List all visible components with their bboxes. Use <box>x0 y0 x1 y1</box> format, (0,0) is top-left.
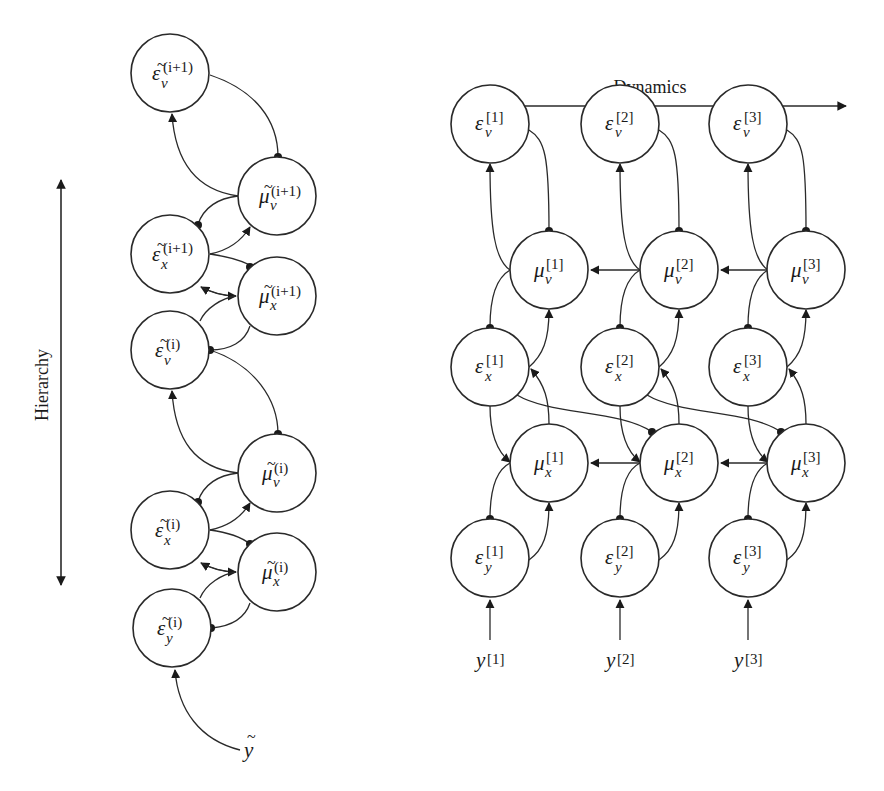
svg-text:x: x <box>544 464 552 480</box>
svg-text:y: y <box>613 559 622 575</box>
svg-text:[3]: [3] <box>744 543 762 559</box>
node-mu-v-ip1: ~ μ (i+1) v <box>238 157 316 235</box>
svg-text:v: v <box>802 271 809 287</box>
svg-text:y: y <box>604 648 616 672</box>
svg-text:x: x <box>163 532 171 548</box>
svg-text:[2]: [2] <box>616 543 634 559</box>
svg-text:ε: ε <box>152 61 161 85</box>
node-eps-y-1: ε [1] y <box>451 519 529 597</box>
svg-text:ε: ε <box>475 545 484 569</box>
svg-text:(i+1): (i+1) <box>163 59 193 76</box>
svg-text:x: x <box>484 368 492 384</box>
svg-text:ε: ε <box>155 518 164 542</box>
svg-text:y: y <box>474 648 486 672</box>
svg-text:v: v <box>743 124 750 140</box>
svg-text:v: v <box>270 197 277 213</box>
svg-text:[2]: [2] <box>617 651 635 667</box>
svg-text:ε: ε <box>475 111 484 135</box>
svg-text:[2]: [2] <box>616 352 634 368</box>
node-mu-v-2: μ [2] v <box>640 231 718 309</box>
svg-text:x: x <box>272 573 280 589</box>
node-mu-v-1: μ [1] v <box>510 231 588 309</box>
svg-text:ε: ε <box>733 111 742 135</box>
node-mu-v-3: μ [3] v <box>767 231 845 309</box>
node-eps-y-2: ε [2] y <box>581 519 659 597</box>
svg-text:μ: μ <box>261 560 273 584</box>
svg-text:ε: ε <box>605 545 614 569</box>
svg-text:ε: ε <box>733 545 742 569</box>
hierarchy-axis: Hierarchy <box>32 180 61 585</box>
svg-text:[2]: [2] <box>616 109 634 125</box>
svg-text:[1]: [1] <box>486 109 504 125</box>
input-y-3: y [3] <box>732 648 763 672</box>
column-1: ε [1] v μ [1] v ε [1] x μ [1] x <box>451 85 588 672</box>
column-2: ε [2] v μ [2] v ε [2] x μ [2] x <box>581 85 718 672</box>
node-eps-x-1: ε [1] x <box>451 328 529 406</box>
svg-text:μ: μ <box>790 451 802 475</box>
svg-text:[1]: [1] <box>546 256 564 272</box>
input-y-1: y [1] <box>474 648 505 672</box>
svg-text:[1]: [1] <box>486 543 504 559</box>
svg-text:ε: ε <box>605 111 614 135</box>
svg-text:v: v <box>545 271 552 287</box>
svg-text:[3]: [3] <box>745 651 763 667</box>
right-panel-nodes: ε [1] v μ [1] v ε [1] x μ [1] x <box>451 85 845 672</box>
svg-text:μ: μ <box>533 258 545 282</box>
svg-text:v: v <box>161 75 168 91</box>
svg-text:[3]: [3] <box>803 449 821 465</box>
svg-text:μ: μ <box>790 258 802 282</box>
svg-text:μ: μ <box>533 451 545 475</box>
node-mu-x-i: ~ μ (i) x <box>238 533 316 611</box>
svg-text:μ: μ <box>663 451 675 475</box>
svg-text:x: x <box>742 368 750 384</box>
svg-text:v: v <box>675 271 682 287</box>
node-mu-x-1: μ [1] x <box>510 424 588 502</box>
svg-text:x: x <box>801 464 809 480</box>
svg-text:v: v <box>485 124 492 140</box>
node-eps-v-3: ε [3] v <box>709 85 787 163</box>
svg-text:(i+1): (i+1) <box>163 240 193 257</box>
svg-text:[2]: [2] <box>676 256 694 272</box>
svg-text:ε: ε <box>475 354 484 378</box>
svg-text:ε: ε <box>152 242 161 266</box>
svg-text:[1]: [1] <box>487 651 505 667</box>
svg-text:x: x <box>269 297 277 313</box>
svg-text:v: v <box>273 474 280 490</box>
node-mu-x-3: μ [3] x <box>767 424 845 502</box>
node-eps-v-i: ~ ε (i) v <box>131 311 209 389</box>
svg-text:y: y <box>242 738 254 762</box>
hierarchy-label: Hierarchy <box>32 349 52 421</box>
svg-text:y: y <box>164 630 173 646</box>
svg-text:ε: ε <box>157 616 166 640</box>
svg-text:[1]: [1] <box>486 352 504 368</box>
svg-text:(i): (i) <box>166 336 180 353</box>
node-eps-y-i: ~ ε (i) y <box>133 589 211 667</box>
node-eps-v-1: ε [1] v <box>451 85 529 163</box>
predictive-coding-diagram: Hierarchy Dynamics <box>0 0 884 791</box>
svg-text:(i): (i) <box>168 614 182 631</box>
svg-text:y: y <box>483 559 492 575</box>
node-eps-x-2: ε [2] x <box>581 328 659 406</box>
svg-text:μ: μ <box>258 184 270 208</box>
svg-text:μ: μ <box>261 461 273 485</box>
left-panel-nodes: ~ ε (i+1) v ~ μ (i+1) v ~ ε (i+1) x ~ μ … <box>131 34 316 762</box>
input-y-2: y [2] <box>604 648 635 672</box>
node-eps-x-i: ~ ε (i) x <box>131 491 209 569</box>
svg-text:[3]: [3] <box>803 256 821 272</box>
svg-text:(i): (i) <box>166 516 180 533</box>
node-eps-v-ip1: ~ ε (i+1) v <box>131 34 209 112</box>
svg-text:μ: μ <box>258 284 270 308</box>
svg-text:[1]: [1] <box>546 449 564 465</box>
svg-text:[2]: [2] <box>676 449 694 465</box>
svg-text:ε: ε <box>733 354 742 378</box>
svg-text:μ: μ <box>663 258 675 282</box>
svg-text:y: y <box>741 559 750 575</box>
input-y-tilde: ~ y <box>242 728 256 762</box>
node-eps-v-2: ε [2] v <box>581 85 659 163</box>
node-eps-x-3: ε [3] x <box>709 328 787 406</box>
node-eps-x-ip1: ~ ε (i+1) x <box>131 215 209 293</box>
svg-text:[3]: [3] <box>744 352 762 368</box>
svg-text:ε: ε <box>605 354 614 378</box>
svg-text:v: v <box>615 124 622 140</box>
svg-text:[3]: [3] <box>744 109 762 125</box>
